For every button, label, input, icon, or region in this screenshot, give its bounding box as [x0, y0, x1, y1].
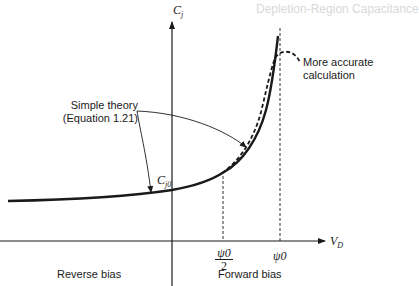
- simple-theory-arrow-cj0: [137, 111, 151, 192]
- x-axis-label: VD: [330, 235, 343, 252]
- psi-tick-label: ψ0: [273, 250, 286, 263]
- simple-theory-curve: [8, 36, 278, 201]
- cj0-label: Cj0: [157, 174, 171, 191]
- accurate-annotation: More accurate calculation: [303, 56, 373, 82]
- forward-bias-label: Forward bias: [218, 268, 282, 281]
- accurate-curve: [222, 52, 300, 173]
- y-axis-label: Cj: [173, 4, 183, 21]
- simple-theory-arrow-curve: [137, 111, 246, 147]
- simple-theory-annotation: Simple theory (Equation 1.21): [60, 99, 138, 125]
- reverse-bias-label: Reverse bias: [57, 268, 121, 281]
